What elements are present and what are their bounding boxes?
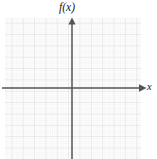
- y-axis-label: f(x): [59, 2, 75, 14]
- x-axis-arrowhead-icon: [139, 84, 147, 92]
- x-axis-label: x: [147, 82, 152, 93]
- coordinate-plane-figure: f(x) x: [0, 0, 157, 159]
- coordinate-grid-svg: [0, 0, 157, 159]
